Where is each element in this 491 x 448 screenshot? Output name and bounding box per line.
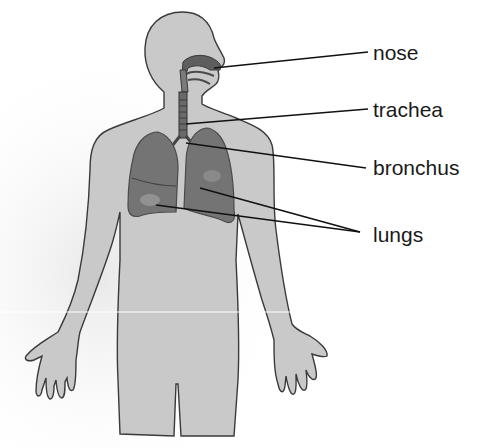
- label-bronchus: bronchus: [373, 157, 459, 178]
- label-lungs: lungs: [373, 224, 423, 245]
- label-trachea: trachea: [373, 99, 443, 120]
- left-lung-highlight: [140, 194, 160, 206]
- pharynx: [180, 70, 188, 92]
- label-nose: nose: [373, 42, 419, 63]
- right-lung-highlight: [203, 170, 221, 182]
- respiratory-diagram: nose trachea bronchus lungs: [0, 0, 491, 448]
